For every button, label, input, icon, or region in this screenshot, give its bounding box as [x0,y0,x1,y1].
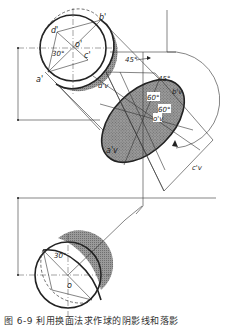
label-angle-30: 30° [52,50,64,58]
label-a-prime: a' [36,75,43,84]
label-c-prime: c' [84,51,91,60]
label-o: o [67,281,72,290]
label-60-a: 60° [147,94,159,102]
shadow-construction-diagram: b' d' o' 30° c' a' 45° [0,0,229,326]
label-45-top: 45° [125,56,137,64]
label-45-right: 45° [158,75,170,83]
label-a-v: a'v [106,146,118,155]
dimension-m-bottom [17,197,19,276]
figure-caption: 图 6-9 利用换面法求作球的阴影线和落影 [4,314,226,326]
label-angle-30-bottom: 30° [54,252,66,260]
label-b-v: b'v [172,88,183,96]
label-c-v: c'v [192,164,203,172]
bottom-sphere-view: 30° o [18,206,142,318]
label-o-v: o'v [153,115,164,123]
ellipse-shadow-view: 45° 45° 60° 60° o'v b'v d'v a'v c'v [18,10,220,214]
label-o-prime: o' [75,40,82,49]
label-d-prime: d' [51,26,58,35]
label-d-v: d'v [98,82,109,90]
label-60-b: 60° [158,106,170,114]
label-b-prime: b' [99,13,106,22]
